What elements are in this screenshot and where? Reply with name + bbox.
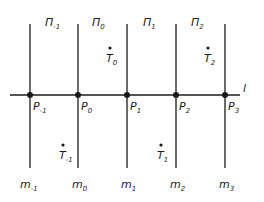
label-m-2: m2	[170, 178, 186, 193]
point-t-minus1	[61, 143, 64, 146]
label-m-minus1: m-1	[20, 178, 38, 193]
label-m-0: m0	[72, 178, 88, 193]
label-t-minus1: T-1	[59, 149, 73, 164]
point-t-2	[206, 46, 209, 49]
label-t-0: T0	[106, 52, 118, 67]
label-t-2: T2	[204, 52, 216, 67]
point-p-2	[173, 92, 179, 98]
diagram-canvas: l P-1 P0 P1 P2 P3 Π-1 Π0 Π1 Π2 m-1 m0 m1…	[0, 0, 264, 202]
label-m-3: m3	[219, 178, 234, 193]
point-p-3	[222, 92, 228, 98]
point-t-0	[108, 46, 111, 49]
label-p-0: P0	[81, 100, 93, 115]
label-plane-minus1: Π-1	[45, 16, 60, 31]
point-p-minus1	[27, 92, 33, 98]
label-plane-2: Π2	[191, 16, 204, 31]
label-t-1: T1	[157, 149, 168, 164]
point-p-0	[75, 92, 81, 98]
label-p-2: P2	[179, 100, 191, 115]
label-p-1: P1	[130, 100, 141, 115]
point-t-1	[159, 143, 162, 146]
label-plane-1: Π1	[143, 16, 156, 31]
point-p-1	[124, 92, 130, 98]
label-plane-0: Π0	[92, 16, 105, 31]
label-m-1: m1	[121, 178, 136, 193]
label-p-3: P3	[228, 100, 239, 115]
label-p-minus1: P-1	[33, 100, 47, 115]
line-l-label: l	[243, 82, 246, 95]
